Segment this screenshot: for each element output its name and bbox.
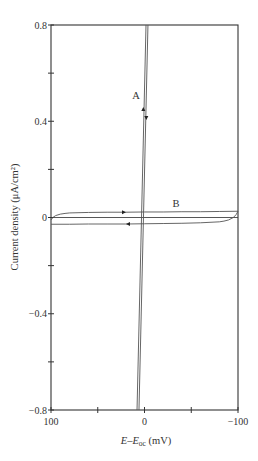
- x-tick-label: 0: [142, 416, 147, 427]
- x-axis-label-unit: (mV): [146, 435, 172, 447]
- curve-label-a: A: [132, 90, 140, 101]
- y-tick-label: 0.8: [35, 20, 48, 31]
- axis-ticks: 0.80.40−0.4−0.81000−100: [29, 20, 248, 428]
- curve-label-b: B: [172, 198, 179, 209]
- y-tick-label: −0.4: [29, 308, 47, 319]
- arrow-down-icon: [144, 116, 148, 120]
- y-axis-label: Current density (μA/cm²): [9, 163, 21, 270]
- y-tick-label: 0.4: [35, 116, 48, 127]
- x-axis-label-main: E–E: [120, 435, 140, 446]
- arrow-right-icon: [122, 210, 126, 214]
- polarization-chart: 0.80.40−0.4−0.81000−100 A B Current dens…: [0, 0, 258, 461]
- arrow-up-icon: [141, 107, 145, 111]
- y-tick-label: −0.8: [29, 405, 47, 416]
- y-tick-label: 0: [42, 212, 47, 223]
- series-line: [51, 211, 238, 220]
- arrow-left-icon: [126, 222, 130, 226]
- x-tick-label: −100: [228, 416, 249, 427]
- x-tick-label: 100: [44, 416, 59, 427]
- x-axis-label: E–Eoc (mV): [120, 435, 172, 448]
